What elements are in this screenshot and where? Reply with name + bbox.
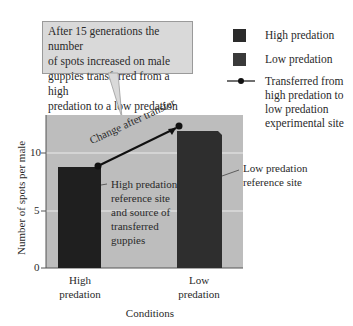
ytick-label-0: 0 <box>34 260 40 274</box>
ytick-label-5: 5 <box>34 203 40 217</box>
y-axis-label: Number of spots per male <box>14 141 28 255</box>
low-ref-annotation: Low predation reference site <box>243 161 307 189</box>
annotation-line: and source of <box>111 205 177 219</box>
annotation-line: Low predation <box>243 161 307 175</box>
annotation-line: transferred <box>111 219 177 233</box>
x-axis-label: Conditions <box>118 306 182 320</box>
transfer-end-point <box>176 123 183 130</box>
ytick-label-10: 10 <box>30 145 41 159</box>
bar-high-predation <box>58 167 101 268</box>
high-ref-annotation: High predation reference site and source… <box>111 177 177 247</box>
annotation-line: High predation <box>111 177 177 191</box>
xtick-line: predation <box>176 287 222 301</box>
xtick-label-low: Low predation <box>176 273 222 301</box>
xtick-line: Low <box>176 273 222 287</box>
xtick-line: predation <box>57 287 103 301</box>
bar-low-predation <box>177 131 222 268</box>
annotation-line: reference site <box>243 175 307 189</box>
xtick-line: High <box>57 273 103 287</box>
annotation-line: guppies <box>111 233 177 247</box>
callout-pointer <box>108 73 122 118</box>
transfer-start-point <box>95 163 102 170</box>
annotation-line: reference site <box>111 191 177 205</box>
xtick-label-high: High predation <box>57 273 103 301</box>
